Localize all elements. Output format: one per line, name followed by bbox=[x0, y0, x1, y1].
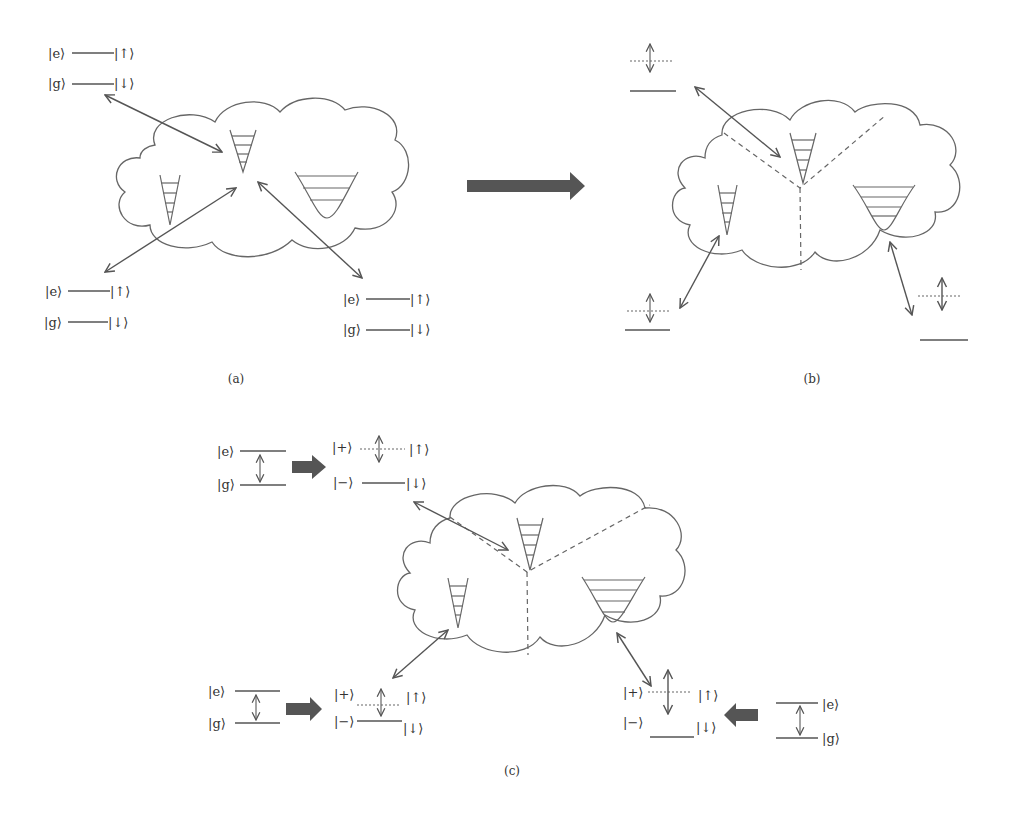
state-g: |g⟩ bbox=[822, 731, 840, 746]
state-e: |e⟩ bbox=[48, 46, 65, 61]
panel-b: (b) bbox=[625, 44, 968, 386]
bath-cloud-c bbox=[398, 486, 686, 655]
dressing-arrow bbox=[286, 697, 322, 721]
figure-canvas: |e⟩ |↑⟩ |g⟩ |↓⟩ |e⟩ |↑⟩ |g⟩ |↓⟩ |e⟩ |↑⟩ … bbox=[0, 0, 1015, 822]
state-down: |↓⟩ bbox=[108, 315, 128, 330]
coupling-arrow-b-right bbox=[890, 242, 912, 315]
state-minus: |−⟩ bbox=[333, 475, 353, 490]
caption-a: (a) bbox=[228, 372, 245, 386]
dressed-level-b-right bbox=[918, 278, 968, 340]
state-g: |g⟩ bbox=[44, 315, 62, 330]
caption-c: (c) bbox=[504, 764, 520, 778]
dressed-level-b-top bbox=[630, 44, 676, 91]
panel-c: |e⟩ |g⟩ |+⟩ |↑⟩ |−⟩ |↓⟩ |e⟩ |g⟩ |+⟩ |↑⟩ bbox=[208, 436, 840, 778]
state-up: |↑⟩ bbox=[406, 690, 426, 705]
transition-arrow-a-to-b bbox=[467, 172, 585, 200]
state-minus: |−⟩ bbox=[623, 715, 643, 730]
qubit-a-bottom-right: |e⟩ |↑⟩ |g⟩ |↓⟩ bbox=[343, 292, 430, 337]
dressed-level-b-left bbox=[625, 294, 670, 330]
state-up: |↑⟩ bbox=[114, 46, 134, 61]
caption-b: (b) bbox=[803, 372, 820, 386]
state-down: |↓⟩ bbox=[403, 721, 423, 736]
state-down: |↓⟩ bbox=[696, 720, 716, 735]
state-e: |e⟩ bbox=[217, 444, 234, 459]
state-e: |e⟩ bbox=[822, 697, 839, 712]
state-up: |↑⟩ bbox=[110, 284, 130, 299]
state-e: |e⟩ bbox=[208, 684, 225, 699]
state-g: |g⟩ bbox=[217, 477, 235, 492]
state-e: |e⟩ bbox=[343, 292, 360, 307]
state-g: |g⟩ bbox=[343, 322, 361, 337]
panel-a: |e⟩ |↑⟩ |g⟩ |↓⟩ |e⟩ |↑⟩ |g⟩ |↓⟩ |e⟩ |↑⟩ … bbox=[44, 46, 430, 386]
qubit-a-top-left: |e⟩ |↑⟩ |g⟩ |↓⟩ bbox=[48, 46, 134, 91]
qubit-a-bottom-left: |e⟩ |↑⟩ |g⟩ |↓⟩ bbox=[44, 284, 130, 330]
coupling-arrow-c-right bbox=[617, 633, 651, 686]
state-plus: |+⟩ bbox=[334, 687, 354, 702]
state-up: |↑⟩ bbox=[698, 688, 718, 703]
state-e: |e⟩ bbox=[45, 284, 62, 299]
bath-cloud-b bbox=[673, 100, 960, 270]
state-plus: |+⟩ bbox=[332, 440, 352, 455]
coupling-arrow-c-left bbox=[393, 630, 448, 678]
dressing-arrow bbox=[724, 703, 758, 727]
state-down: |↓⟩ bbox=[410, 322, 430, 337]
qubit-c-bottom-right: |+⟩ |↑⟩ |−⟩ |↓⟩ |e⟩ |g⟩ bbox=[623, 670, 840, 746]
state-minus: |−⟩ bbox=[334, 714, 354, 729]
dressing-arrow bbox=[292, 455, 326, 479]
qubit-c-bottom-left: |e⟩ |g⟩ |+⟩ |↑⟩ |−⟩ |↓⟩ bbox=[208, 684, 426, 736]
state-plus: |+⟩ bbox=[623, 685, 643, 700]
state-g: |g⟩ bbox=[48, 76, 66, 91]
state-g: |g⟩ bbox=[208, 716, 226, 731]
state-down: |↓⟩ bbox=[406, 476, 426, 491]
state-down: |↓⟩ bbox=[114, 76, 134, 91]
state-up: |↑⟩ bbox=[409, 442, 429, 457]
qubit-c-top-left: |e⟩ |g⟩ |+⟩ |↑⟩ |−⟩ |↓⟩ bbox=[217, 436, 429, 492]
state-up: |↑⟩ bbox=[410, 292, 430, 307]
